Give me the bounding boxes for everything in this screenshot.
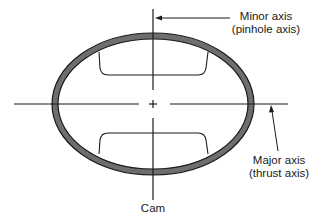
major-axis-label-line2: (thrust axis) — [243, 167, 315, 180]
minor-axis-arrow — [155, 16, 230, 21]
cam-label: Cam — [138, 202, 168, 215]
major-axis-label-line1: Major axis — [243, 154, 315, 167]
minor-axis-label-line2: (pinhole axis) — [228, 23, 304, 36]
minor-axis-label-line1: Minor axis — [228, 10, 304, 23]
minor-axis-label: Minor axis (pinhole axis) — [228, 10, 304, 36]
major-axis-arrow — [269, 105, 278, 151]
major-axis-label: Major axis (thrust axis) — [243, 154, 315, 180]
